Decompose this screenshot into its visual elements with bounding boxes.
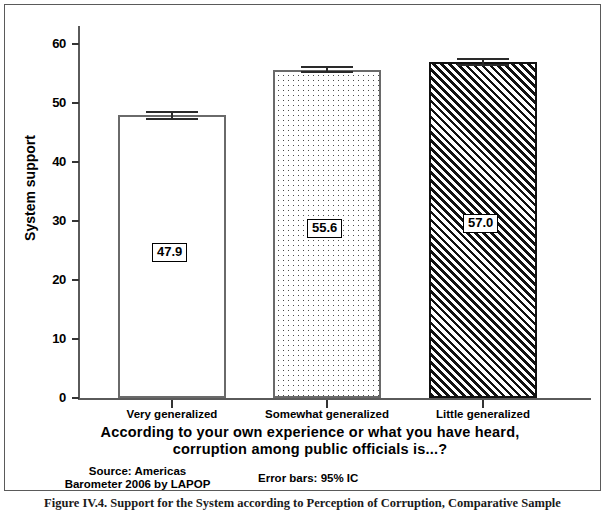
figure-container: System support 6050403020100 47.955.657.… (0, 0, 609, 514)
x-tick-label-2: Somewhat generalized (247, 408, 407, 420)
source-note-line-1: Source: Americas (30, 465, 245, 478)
x-tick-label-3: Little generalized (403, 408, 563, 420)
error-bars-note: Error bars: 95% IC (258, 472, 358, 484)
y-tick-mark (72, 338, 79, 340)
y-tick-mark (72, 43, 79, 45)
y-tick-label: 0 (26, 390, 66, 405)
figure-caption: Figure IV.4. Support for the System acco… (4, 496, 601, 511)
error-bar-cap-lower (457, 64, 509, 66)
y-tick-label: 20 (26, 272, 66, 287)
x-tick-mark (482, 400, 484, 408)
y-tick-label: 10 (26, 331, 66, 346)
data-label-3: 57.0 (463, 214, 498, 233)
y-tick-mark (72, 279, 79, 281)
source-note: Source: Americas Barometer 2006 by LAPOP (30, 465, 245, 491)
error-bar-cap-lower (146, 118, 198, 120)
source-note-line-2: Barometer 2006 by LAPOP (30, 478, 245, 491)
error-bar-2 (273, 66, 381, 73)
error-bar-cap-upper (457, 58, 509, 60)
x-axis-line (78, 398, 591, 400)
error-bar-cap-upper (301, 66, 353, 68)
x-axis-title-line-2: corruption among public officials is...? (60, 441, 560, 458)
x-axis-title: According to your own experience or what… (60, 424, 560, 458)
y-tick-mark (72, 397, 79, 399)
data-label-2: 55.6 (307, 219, 342, 238)
y-axis-line (78, 26, 80, 400)
x-tick-label-1: Very generalized (92, 408, 252, 420)
y-tick-mark (72, 220, 79, 222)
y-tick-mark (72, 102, 79, 104)
y-tick-label: 40 (26, 154, 66, 169)
error-bar-3 (429, 58, 537, 66)
x-tick-mark (171, 400, 173, 408)
data-label-1: 47.9 (152, 243, 187, 262)
error-bar-cap-lower (301, 71, 353, 73)
y-tick-label: 60 (26, 36, 66, 51)
y-tick-mark (72, 161, 79, 163)
y-axis-title: System support (22, 98, 38, 278)
error-bar-1 (118, 111, 226, 119)
y-tick-label: 50 (26, 95, 66, 110)
x-tick-mark (326, 400, 328, 408)
error-bar-cap-upper (146, 111, 198, 113)
y-tick-label: 30 (26, 213, 66, 228)
x-axis-title-line-1: According to your own experience or what… (60, 424, 560, 441)
